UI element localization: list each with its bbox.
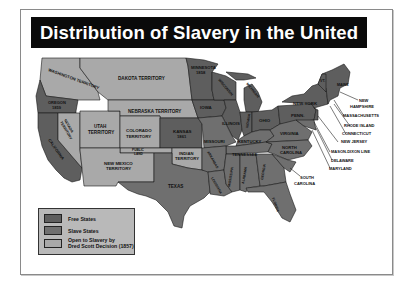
callout-new-hampshire: NEW — [359, 98, 369, 103]
callout-new-jersey: NEW JERSEY — [341, 139, 368, 144]
label-minnesota-year: 1858 — [196, 70, 206, 75]
label-missouri: MISSOURI — [204, 139, 225, 144]
label-virginia: VIRGINIA — [280, 131, 299, 136]
label-colorado2: TERRITORY — [126, 134, 151, 139]
legend-item-slave: Slave States — [44, 226, 99, 235]
label-public2: LAND — [134, 152, 144, 156]
callout-massachusetts: MASSACHUSETTS — [343, 113, 379, 118]
label-tennessee: TENNESSEE — [232, 152, 258, 157]
legend-item-free: Free States — [44, 214, 96, 223]
label-penn: PENN. — [291, 113, 304, 118]
callout-rhode-island: RHODE ISLAND — [344, 123, 375, 128]
label-kentucky: KENTUCKY — [238, 139, 261, 144]
legend-label-free: Free States — [68, 216, 96, 222]
region-public-land — [120, 148, 172, 153]
legend-label-slave: Slave States — [68, 228, 99, 234]
callout-connecticut: CONNECTICUT — [342, 131, 372, 136]
slave-swatch-icon — [44, 226, 62, 235]
callout-maryland: MARYLAND — [329, 166, 352, 171]
label-maine: MAINE — [337, 83, 349, 87]
legend-label-open-line2: Dred Scott Decision (1857) — [68, 243, 134, 249]
label-texas: TEXAS — [168, 184, 183, 189]
label-utah2: TERRITORY — [88, 130, 114, 135]
label-utah: UTAH — [94, 124, 107, 129]
open-swatch-icon — [44, 239, 62, 248]
label-dakota: DAKOTA TERRITORY — [118, 76, 165, 81]
label-new-york: NEW YORK — [293, 101, 318, 106]
label-oregon-year: 1859 — [52, 105, 62, 110]
region-florida — [246, 182, 296, 222]
label-indian2: TERRITORY — [175, 156, 199, 161]
callout-south-carolina: SOUTH — [300, 175, 314, 180]
legend-label-open: Open to Slavery by Dred Scott Decision (… — [68, 237, 134, 249]
label-ohio: OHIO — [259, 118, 271, 123]
label-iowa: IOWA — [200, 105, 213, 110]
legend-item-open: Open to Slavery by Dred Scott Decision (… — [44, 237, 134, 249]
label-vermont: VT. — [320, 79, 325, 83]
label-nebraska: NEBRASKA TERRITORY — [128, 109, 181, 114]
label-colorado: COLORADO — [126, 128, 152, 133]
callout-south-carolina-2: CAROLINA — [294, 181, 315, 186]
callout-delaware: DELAWARE — [331, 158, 354, 163]
label-kansas-year: 1861 — [177, 134, 187, 139]
label-north-carolina2: CAROLINA — [280, 150, 302, 155]
free-swatch-icon — [44, 214, 62, 223]
callout-mason-dixon: MASON-DIXON LINE — [331, 149, 370, 154]
map-legend: Free States Slave States Open to Slavery… — [38, 208, 135, 255]
label-illinois: ILLINOIS — [222, 121, 240, 126]
label-new-mexico2: TERRITORY — [106, 166, 131, 171]
callout-new-hampshire-2: HAMPSHIRE — [350, 104, 374, 109]
